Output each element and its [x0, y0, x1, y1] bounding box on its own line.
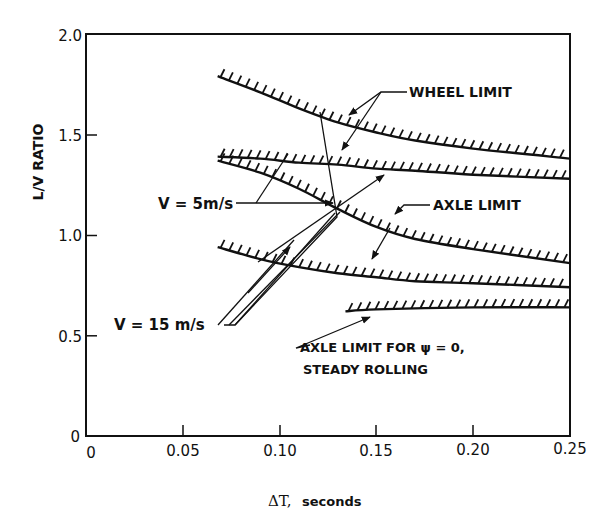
y-tick-label: 2.0 [58, 27, 82, 45]
x-tick-label: 0.20 [456, 441, 489, 459]
y-tick-label: 0.5 [58, 328, 82, 346]
limit-curve [218, 76, 570, 158]
y-tick-label: 0 [70, 428, 80, 446]
x-axis: 0 0.05 0.10 0.15 0.20 0.25 ΔT, seconds [86, 425, 586, 510]
v5-label: V = 5m/s [158, 195, 233, 213]
x-tick-label: 0.15 [359, 442, 392, 460]
wheel-limit-label: WHEEL LIMIT [409, 84, 512, 100]
chart: 0 0.5 1.0 1.5 2.0 L/V RATIO 0 0.05 0.10 … [0, 0, 615, 527]
limit-curves [218, 69, 570, 311]
steady-rolling-label-line2: STEADY ROLLING [303, 362, 428, 377]
v15-label: V = 15 m/s [114, 316, 205, 334]
y-tick-label: 1.0 [58, 227, 82, 245]
annotations: WHEEL LIMIT AXLE LIMIT V = 5m/s V = 15 m… [114, 84, 521, 377]
x-tick-label: 0.05 [166, 442, 199, 460]
steady-rolling-label-line1: AXLE LIMIT FOR ψ = 0, [300, 340, 465, 355]
y-axis-label: L/V RATIO [30, 123, 46, 200]
x-axis-label-unit: seconds [302, 494, 362, 509]
axle-limit-label: AXLE LIMIT [433, 197, 521, 213]
x-tick-label: 0 [86, 444, 96, 462]
x-tick-label: 0.10 [263, 442, 296, 460]
x-tick-label: 0.25 [553, 440, 586, 458]
x-axis-label-symbol: ΔT, [268, 492, 291, 510]
limit-curve [345, 307, 570, 311]
y-tick-label: 1.5 [58, 127, 82, 145]
